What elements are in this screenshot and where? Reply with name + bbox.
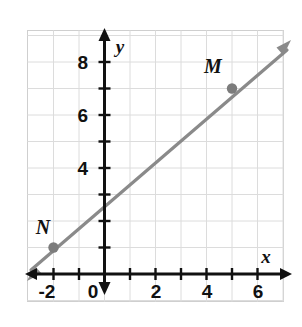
y-tick-label-4: 4 — [77, 158, 88, 179]
x-tick-label--2: -2 — [39, 281, 56, 302]
coordinate-plane-svg: M N y x -2 0 2 4 6 8 6 4 — [0, 0, 302, 327]
origin-label: 0 — [88, 281, 99, 302]
point-n-label: N — [35, 216, 52, 238]
point-n-marker[interactable] — [48, 242, 58, 252]
x-tick-label-2: 2 — [151, 281, 162, 302]
x-axis-name-label: x — [260, 246, 271, 267]
y-tick-label-6: 6 — [77, 105, 88, 126]
coordinate-graph-figure: M N y x -2 0 2 4 6 8 6 4 — [0, 0, 302, 327]
y-axis-name-label: y — [114, 36, 125, 57]
point-m-marker[interactable] — [227, 83, 237, 93]
x-tick-label-6: 6 — [253, 281, 264, 302]
point-m-label: M — [203, 55, 223, 77]
y-tick-label-8: 8 — [77, 52, 88, 73]
x-axis-arrow-right — [280, 268, 292, 280]
x-tick-label-4: 4 — [202, 281, 213, 302]
